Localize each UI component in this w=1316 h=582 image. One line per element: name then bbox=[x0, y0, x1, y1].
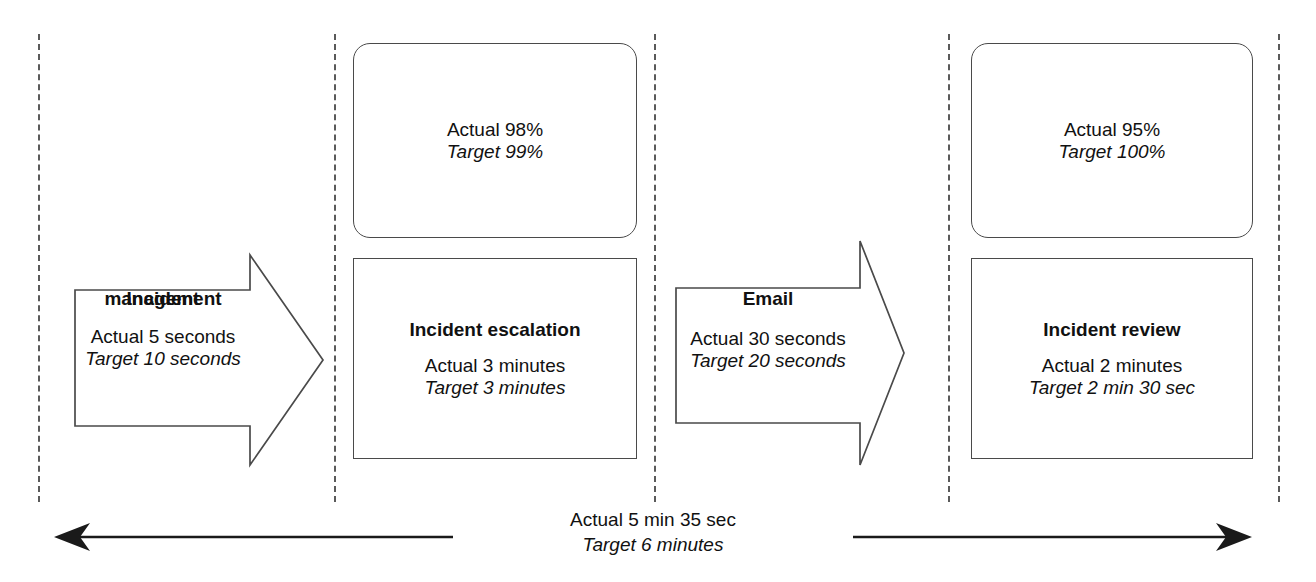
kpi-box-incident-review[interactable]: Actual 95% Target 100% bbox=[971, 43, 1253, 238]
arrow-incident-management[interactable]: Incident management Actual 5 seconds Tar… bbox=[74, 254, 324, 466]
process-target-value: Target 2 min 30 sec bbox=[1029, 377, 1195, 399]
lane-separator-2 bbox=[334, 34, 336, 502]
lane-separator-1 bbox=[38, 34, 40, 502]
process-target-value: Target 3 minutes bbox=[409, 377, 580, 399]
timeline-target-value: Target 6 minutes bbox=[453, 533, 853, 558]
arrow-shape-icon bbox=[675, 240, 905, 466]
process-box-incident-escalation[interactable]: Incident escalation Actual 3 minutes Tar… bbox=[353, 258, 637, 459]
kpi-text-group: Actual 98% Target 99% bbox=[447, 119, 543, 163]
arrow-email[interactable]: Email Actual 30 seconds Target 20 second… bbox=[675, 240, 905, 466]
kpi-actual-value: Actual 98% bbox=[447, 119, 543, 141]
kpi-actual-value: Actual 95% bbox=[1058, 119, 1165, 141]
process-actual-value: Actual 3 minutes bbox=[409, 355, 580, 377]
process-text-group: Incident review Actual 2 minutes Target … bbox=[1029, 319, 1195, 399]
lane-separator-5 bbox=[1278, 34, 1280, 502]
kpi-target-value: Target 100% bbox=[1058, 141, 1165, 163]
process-title: Incident escalation bbox=[409, 319, 580, 341]
process-actual-value: Actual 2 minutes bbox=[1029, 355, 1195, 377]
lane-separator-4 bbox=[948, 34, 950, 502]
kpi-box-incident-escalation[interactable]: Actual 98% Target 99% bbox=[353, 43, 637, 238]
total-duration-timeline: Actual 5 min 35 sec Target 6 minutes bbox=[38, 518, 1268, 558]
kpi-text-group: Actual 95% Target 100% bbox=[1058, 119, 1165, 163]
timeline-text-group: Actual 5 min 35 sec Target 6 minutes bbox=[453, 506, 853, 559]
kpi-target-value: Target 99% bbox=[447, 141, 543, 163]
process-box-incident-review[interactable]: Incident review Actual 2 minutes Target … bbox=[971, 258, 1253, 459]
process-timeline-diagram: Actual 98% Target 99% Actual 95% Target … bbox=[0, 0, 1316, 582]
process-text-group: Incident escalation Actual 3 minutes Tar… bbox=[409, 319, 580, 399]
lane-separator-3 bbox=[654, 34, 656, 502]
process-title: Incident review bbox=[1029, 319, 1195, 341]
timeline-actual-value: Actual 5 min 35 sec bbox=[453, 508, 853, 533]
arrow-shape-icon bbox=[74, 254, 324, 466]
